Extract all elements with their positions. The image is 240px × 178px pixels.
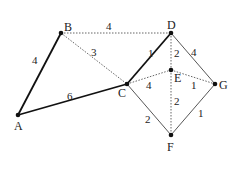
edge-A-C-bold bbox=[18, 84, 127, 115]
label-E: E bbox=[174, 71, 181, 85]
edge-C-F bbox=[127, 84, 171, 135]
node-F bbox=[169, 133, 174, 138]
edges bbox=[18, 33, 215, 135]
weight-A-C: 6 bbox=[67, 90, 73, 102]
weight-E-G: 1 bbox=[191, 79, 197, 91]
graph-diagram: 4 6 4 3 1 4 2 4 1 2 2 1 A B C D E G F bbox=[0, 0, 240, 178]
label-C: C bbox=[118, 86, 126, 100]
label-D: D bbox=[167, 18, 176, 32]
edge-B-C bbox=[61, 33, 127, 84]
node-B bbox=[59, 31, 64, 36]
label-A: A bbox=[14, 119, 23, 133]
weight-D-E: 2 bbox=[174, 47, 180, 59]
label-B: B bbox=[64, 20, 72, 34]
edge-A-B bbox=[18, 33, 61, 115]
node-E bbox=[169, 68, 174, 73]
node-G bbox=[213, 82, 218, 87]
weight-G-F: 1 bbox=[198, 107, 204, 119]
weight-C-D: 1 bbox=[148, 47, 154, 59]
label-G: G bbox=[219, 78, 228, 92]
weight-B-D: 4 bbox=[106, 20, 112, 32]
weight-E-F: 2 bbox=[174, 95, 180, 107]
nodes bbox=[16, 31, 218, 138]
weight-C-E: 4 bbox=[146, 79, 152, 91]
node-A bbox=[16, 113, 21, 118]
edge-G-F bbox=[171, 84, 215, 135]
weight-C-F: 2 bbox=[145, 113, 151, 125]
weight-A-B: 4 bbox=[32, 54, 38, 66]
label-F: F bbox=[167, 140, 174, 154]
weight-D-G: 4 bbox=[191, 46, 197, 58]
weight-B-C: 3 bbox=[91, 46, 97, 58]
